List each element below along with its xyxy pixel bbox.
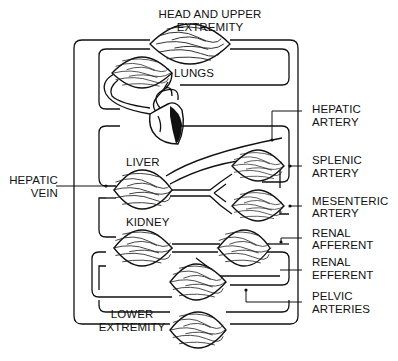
label-head: HEAD AND UPPER (158, 8, 261, 20)
label-renal-efferent-2: EFFERENT (312, 269, 374, 281)
label-lungs: LUNGS (174, 67, 214, 79)
label-splenic-artery-2: ARTERY (312, 167, 359, 179)
splenic-capillary-bed (232, 150, 284, 181)
label-renal-afferent: RENAL (312, 227, 351, 239)
label-renal-afferent-2: AFFERENT (312, 239, 374, 251)
label-lower-2: EXTREMITY (99, 321, 166, 333)
label-pelvic-arteries-2: ARTERIES (312, 303, 370, 315)
pelvic-capillary-bed (170, 264, 226, 300)
label-hepatic-artery-2: ARTERY (312, 116, 359, 128)
label-mesenteric-artery: MESENTERIC (312, 195, 388, 207)
circulation-diagram: HEAD AND UPPER EXTREMITY LUNGS LIVER KID… (0, 0, 398, 361)
label-pelvic-arteries: PELVIC (312, 290, 353, 302)
liver-capillary-bed (113, 170, 173, 209)
label-kidney: KIDNEY (126, 216, 170, 228)
label-hepatic-vein-2: VEIN (31, 187, 58, 199)
mesenteric-capillary-bed (232, 190, 284, 221)
label-renal-efferent: RENAL (312, 256, 351, 268)
label-splenic-artery: SPLENIC (312, 154, 362, 166)
kidney-peritubular-bed (217, 230, 272, 266)
label-lower: LOWER (111, 308, 154, 320)
label-hepatic-artery: HEPATIC (312, 103, 361, 115)
diagram-canvas: HEAD AND UPPER EXTREMITY LUNGS LIVER KID… (0, 0, 398, 361)
label-hepatic-vein: HEPATIC (9, 174, 58, 186)
lungs-capillary-bed (112, 57, 172, 88)
kidney-glomerular-bed (113, 230, 173, 266)
label-mesenteric-artery-2: ARTERY (312, 207, 359, 219)
label-liver: LIVER (126, 156, 160, 168)
lower-extremity-capillary-bed (170, 312, 226, 348)
label-head-2: EXTREMITY (177, 21, 244, 33)
